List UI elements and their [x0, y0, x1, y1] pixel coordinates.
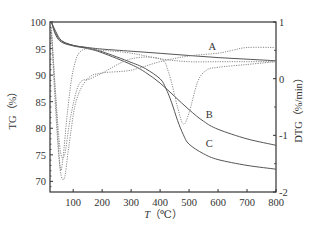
- y-tick-label: 95: [36, 44, 47, 55]
- curve-c: [51, 22, 276, 169]
- x-axis-title: T（℃）: [144, 209, 182, 220]
- y2-tick-label: -2: [279, 187, 288, 198]
- y-tick-label: 75: [36, 150, 47, 161]
- y2-tick-label: 1: [279, 17, 284, 28]
- x-tick-label: 300: [123, 197, 139, 208]
- y-axis-left-title: TG（%）: [7, 87, 18, 130]
- x-tick-label: 500: [181, 197, 197, 208]
- y-tick-label: 100: [30, 17, 46, 28]
- curve-label-c: C: [206, 138, 213, 149]
- x-tick-label: 800: [268, 197, 284, 208]
- x-tick-label: 600: [210, 197, 226, 208]
- axis-ticks: 100200300400500600700800707580859095100-…: [30, 17, 288, 208]
- curve-dtg-b: [51, 33, 276, 179]
- curve-label-a: A: [208, 41, 216, 52]
- y-tick-label: 90: [36, 70, 47, 81]
- y-tick-label: 80: [36, 123, 47, 134]
- y2-tick-label: 0: [279, 74, 284, 85]
- x-tick-label: 100: [65, 197, 81, 208]
- curve-a: [51, 22, 276, 61]
- curve-dtg-a: [51, 28, 276, 171]
- x-tick-label: 200: [94, 197, 110, 208]
- x-tick-label: 400: [152, 197, 168, 208]
- x-axis-title-unit: （℃）: [150, 209, 182, 220]
- y-tick-label: 85: [36, 97, 47, 108]
- y2-tick-label: -1: [279, 130, 288, 141]
- x-tick-label: 700: [239, 197, 255, 208]
- y-axis-right-title: DTG（%/min）: [293, 73, 304, 143]
- tg-dtg-chart: 100200300400500600700800707580859095100-…: [0, 0, 314, 239]
- y-tick-label: 70: [36, 176, 47, 187]
- curve-label-b: B: [206, 109, 213, 120]
- curve-dtg-c: [51, 31, 276, 159]
- data-curves: [51, 22, 276, 180]
